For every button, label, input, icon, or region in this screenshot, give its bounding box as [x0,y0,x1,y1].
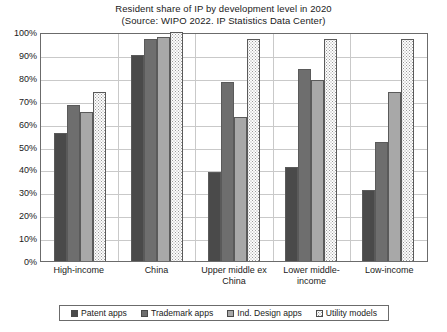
x-axis-category-label: Low-income [350,265,428,295]
y-axis-tick-label: 60% [1,120,37,130]
bars-row [41,34,118,261]
bar[interactable] [234,117,247,261]
bar[interactable] [285,167,298,261]
y-axis-tick-label: 80% [1,74,37,84]
x-axis-category-label: High-income [40,265,118,295]
x-axis-category-label: Upper middle ex China [195,265,273,295]
legend-swatch-icon [141,310,148,317]
bar[interactable] [311,80,324,261]
bar[interactable] [54,133,67,261]
x-axis-category-label: Lower middle-income [273,265,351,295]
y-axis-tick-label: 50% [1,143,37,153]
bar-groups [41,34,427,261]
plot-area [40,33,428,262]
chart-container: Resident share of IP by development leve… [0,0,447,332]
legend-label: Trademark apps [151,308,213,318]
legend-item[interactable]: Patent apps [71,308,127,318]
y-axis-tick-label: 100% [1,28,37,38]
chart-subtitle: (Source: WIPO 2022. IP Statistics Data C… [0,15,447,27]
legend-label: Ind. Design apps [237,308,302,318]
bars-row [273,34,350,261]
bar-group [350,34,427,261]
bar[interactable] [298,69,311,261]
legend-label: Utility models [326,308,377,318]
y-axis-tick-label: 40% [1,165,37,175]
chart-title: Resident share of IP by development leve… [0,3,447,15]
bar[interactable] [131,55,144,261]
bar[interactable] [388,92,401,261]
bar[interactable] [157,37,170,261]
bar[interactable] [247,39,260,261]
bars-row [195,34,272,261]
bar-group [41,34,118,261]
legend-item[interactable]: Utility models [316,308,377,318]
bar[interactable] [80,112,93,261]
y-axis-tick-label: 70% [1,97,37,107]
legend-swatch-icon [71,310,78,317]
bars-row [118,34,195,261]
bar[interactable] [375,142,388,261]
bar-group [273,34,350,261]
bar-group [195,34,272,261]
bars-row [350,34,427,261]
bar-group [118,34,195,261]
bar[interactable] [67,105,80,261]
bar[interactable] [324,39,337,261]
legend-label: Patent apps [81,308,127,318]
y-axis-tick-label: 90% [1,51,37,61]
bar[interactable] [170,32,183,261]
y-axis-tick-label: 30% [1,188,37,198]
chart-legend: Patent appsTrademark appsInd. Design app… [59,305,389,321]
bar[interactable] [93,92,106,261]
bar[interactable] [144,39,157,261]
bar[interactable] [208,172,221,261]
y-axis-tick-label: 10% [1,234,37,244]
y-axis-tick-label: 0% [1,257,37,267]
legend-swatch-icon [316,310,323,317]
x-axis-category-label: China [118,265,196,295]
x-axis-labels: High-incomeChinaUpper middle ex ChinaLow… [40,265,428,295]
legend-item[interactable]: Ind. Design apps [227,308,302,318]
legend-swatch-icon [227,310,234,317]
chart-title-block: Resident share of IP by development leve… [0,3,447,27]
bar[interactable] [362,190,375,261]
bar[interactable] [221,82,234,261]
legend-item[interactable]: Trademark apps [141,308,213,318]
y-axis: 100%90%80%70%60%50%40%30%20%10%0% [0,33,37,262]
bar[interactable] [401,39,414,261]
y-axis-tick-label: 20% [1,211,37,221]
